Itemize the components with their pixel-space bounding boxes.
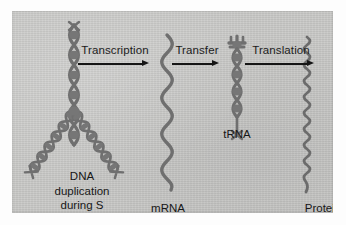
process-transcription-label: Transcription	[78, 44, 152, 57]
figure-page: Transcription Transfer Translation DNA d…	[0, 0, 346, 225]
trna-caption: tRNA	[210, 127, 264, 141]
dna-caption: DNA duplication during S	[34, 169, 130, 213]
process-transcription: Transcription	[78, 44, 152, 69]
arrow-right-icon	[172, 60, 222, 69]
trna-cloverleaf-head	[229, 36, 245, 49]
mrna-caption: mRNA	[140, 201, 196, 213]
process-transfer: Transfer	[172, 44, 222, 69]
protein-caption: Protein	[294, 201, 333, 213]
process-translation: Translation	[245, 44, 317, 69]
process-translation-label: Translation	[245, 44, 317, 57]
dna-caption-line-2: duplication	[34, 184, 130, 199]
arrow-right-icon	[245, 60, 317, 69]
figure-panel: Transcription Transfer Translation DNA d…	[12, 11, 333, 213]
arrow-right-icon	[78, 60, 152, 69]
dna-caption-line-3: during S	[34, 198, 130, 213]
process-transfer-label: Transfer	[172, 44, 222, 57]
dna-caption-line-1: DNA	[34, 169, 130, 184]
